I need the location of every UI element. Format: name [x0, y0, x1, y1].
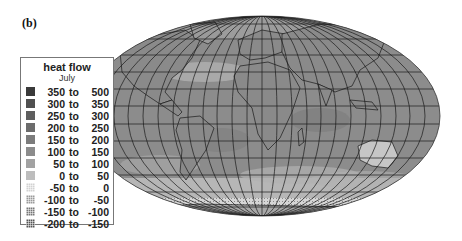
legend-entry: 100to150	[21, 146, 113, 158]
legend-swatch	[26, 159, 35, 168]
legend-swatch	[26, 123, 35, 132]
legend-entry: -50to0	[21, 182, 113, 194]
legend-entry: 50to100	[21, 158, 113, 170]
legend-entry: 150to200	[21, 134, 113, 146]
legend-swatch	[26, 87, 35, 96]
map-legend: heat flow July 350to500 300to350 250to30…	[20, 57, 114, 225]
legend-swatch	[26, 135, 35, 144]
legend-subtitle: July	[21, 73, 113, 84]
legend-entry: -150to-100	[21, 206, 113, 218]
legend-entry: 250to300	[21, 110, 113, 122]
legend-swatch	[26, 99, 35, 108]
legend-swatch	[26, 111, 35, 120]
legend-entry: 0to50	[21, 170, 113, 182]
legend-entry: 350to500	[21, 86, 113, 98]
legend-swatch	[26, 171, 35, 180]
legend-swatch	[26, 195, 35, 204]
legend-entry: -100to-50	[21, 194, 113, 206]
legend-swatch	[26, 207, 35, 216]
legend-entry: -200to-150	[21, 218, 113, 230]
legend-entry: 300to350	[21, 98, 113, 110]
legend-swatch	[26, 219, 35, 228]
legend-swatch	[26, 147, 35, 156]
legend-swatch	[26, 183, 35, 192]
legend-entry: 200to250	[21, 122, 113, 134]
legend-title: heat flow	[21, 61, 113, 73]
